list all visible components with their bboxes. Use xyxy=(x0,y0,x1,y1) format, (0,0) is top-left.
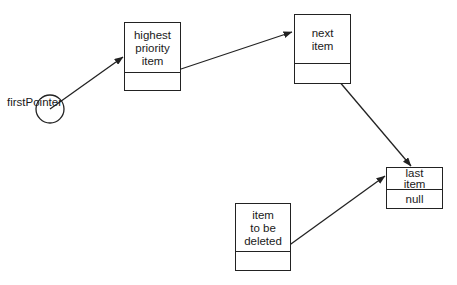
node-text-line: next xyxy=(312,27,334,40)
node-text-line: item xyxy=(252,209,274,222)
connector-layer xyxy=(0,0,457,285)
node-pointer-cell xyxy=(125,73,180,90)
node-text-line: highest xyxy=(134,29,171,42)
first-pointer-label: firstPointer xyxy=(7,96,62,108)
node-text-line: last xyxy=(406,168,424,179)
node-text-line: item xyxy=(404,179,426,190)
node-text-line: item xyxy=(312,40,334,53)
node-data-cell: next item xyxy=(295,15,350,64)
node-data-cell: last item xyxy=(387,168,442,190)
node-item-to-be-deleted: item to be deleted xyxy=(235,203,291,271)
node-text-line: item xyxy=(142,55,164,68)
node-pointer-cell xyxy=(295,64,350,83)
node-text-line: priority xyxy=(135,42,170,55)
node-pointer-null: null xyxy=(387,190,442,208)
node-data-cell: highest priority item xyxy=(125,23,180,73)
node-pointer-cell xyxy=(236,252,290,270)
node-highest-priority-item: highest priority item xyxy=(124,22,181,91)
node-last-item: last item null xyxy=(386,167,443,209)
node-text-line: to be xyxy=(250,222,276,235)
node-text-line: deleted xyxy=(244,235,282,248)
node-next-item: next item xyxy=(294,14,351,84)
node-data-cell: item to be deleted xyxy=(236,204,290,252)
